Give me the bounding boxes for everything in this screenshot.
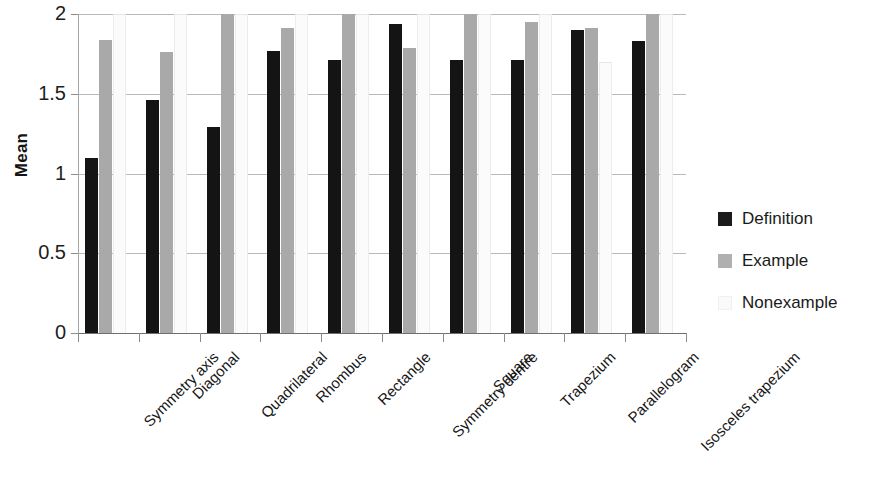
legend-label: Nonexample bbox=[742, 293, 837, 313]
x-axis-tick-mark bbox=[321, 333, 322, 342]
bar-group bbox=[146, 14, 187, 333]
y-axis-tick-mark bbox=[71, 174, 78, 175]
bar-group bbox=[450, 14, 491, 333]
x-axis-category-label: Quadrilateral bbox=[258, 349, 329, 420]
y-axis-tick-labels: 00.511.52 bbox=[12, 0, 66, 503]
x-axis-tick-mark bbox=[504, 333, 505, 342]
x-axis-tick-mark bbox=[625, 333, 626, 342]
x-axis-tick-mark bbox=[564, 333, 565, 342]
legend-swatch-icon bbox=[718, 296, 732, 310]
bar-nonexample bbox=[295, 14, 308, 333]
y-axis-tick-label: 0 bbox=[16, 322, 66, 342]
bar-group bbox=[632, 14, 673, 333]
bar-definition bbox=[571, 30, 584, 333]
x-axis-category-label: Trapezium bbox=[558, 349, 618, 409]
bar-example bbox=[160, 52, 173, 333]
y-axis-tick-label: 0.5 bbox=[16, 242, 66, 262]
bar-definition bbox=[328, 60, 341, 333]
bar-example bbox=[585, 28, 598, 333]
legend-label: Example bbox=[742, 251, 808, 271]
bar-nonexample bbox=[660, 14, 673, 333]
legend-label: Definition bbox=[742, 209, 813, 229]
bar-group bbox=[389, 14, 430, 333]
bar-example bbox=[281, 28, 294, 333]
bar-nonexample bbox=[478, 14, 491, 333]
bar-group bbox=[328, 14, 369, 333]
y-axis-tick-mark bbox=[71, 333, 78, 334]
x-axis-tick-mark bbox=[443, 333, 444, 342]
bar-example bbox=[646, 14, 659, 333]
x-axis-tick-mark bbox=[260, 333, 261, 342]
y-axis-tick-mark bbox=[71, 94, 78, 95]
bar-chart: Mean 00.511.52 Symmetry axisDiagonalQuad… bbox=[0, 0, 875, 503]
x-axis-tick-mark bbox=[78, 333, 79, 342]
plot-area bbox=[78, 14, 686, 333]
bar-nonexample bbox=[235, 14, 248, 333]
legend-swatch-icon bbox=[718, 254, 732, 268]
bar-definition bbox=[267, 51, 280, 333]
bar-group bbox=[207, 14, 248, 333]
x-axis-tick-mark bbox=[686, 333, 687, 342]
legend-item: Definition bbox=[718, 198, 868, 240]
x-axis-category-label: Parallelogram bbox=[625, 349, 701, 425]
bar-definition bbox=[632, 41, 645, 333]
bar-group bbox=[571, 14, 612, 333]
bar-definition bbox=[146, 100, 159, 333]
bar-example bbox=[525, 22, 538, 333]
bar-example bbox=[221, 14, 234, 333]
bar-example bbox=[403, 48, 416, 334]
bar-definition bbox=[450, 60, 463, 333]
bar-group bbox=[267, 14, 308, 333]
bar-group bbox=[511, 14, 552, 333]
bar-nonexample bbox=[174, 14, 187, 333]
legend-item: Example bbox=[718, 240, 868, 282]
x-axis-tick-mark bbox=[200, 333, 201, 342]
bar-example bbox=[464, 14, 477, 333]
bar-nonexample bbox=[599, 62, 612, 333]
y-axis-tick-label: 1.5 bbox=[16, 83, 66, 103]
bar-definition bbox=[85, 158, 98, 333]
y-axis-tick-mark bbox=[71, 14, 78, 15]
legend-swatch-icon bbox=[718, 212, 732, 226]
x-axis-tick-mark bbox=[382, 333, 383, 342]
x-axis-tick-mark bbox=[139, 333, 140, 342]
chart-legend: DefinitionExampleNonexample bbox=[718, 198, 868, 324]
x-axis-category-label: Isosceles trapezium bbox=[698, 349, 802, 453]
bar-example bbox=[99, 40, 112, 333]
legend-item: Nonexample bbox=[718, 282, 868, 324]
bar-nonexample bbox=[113, 14, 126, 333]
bar-definition bbox=[389, 24, 402, 333]
bar-nonexample bbox=[356, 14, 369, 333]
bar-example bbox=[342, 14, 355, 333]
bar-group bbox=[85, 14, 126, 333]
y-axis-tick-label: 2 bbox=[16, 3, 66, 23]
y-axis-tick-label: 1 bbox=[16, 163, 66, 183]
bar-nonexample bbox=[417, 14, 430, 333]
bar-definition bbox=[207, 127, 220, 333]
y-axis-line bbox=[78, 14, 79, 333]
y-axis-tick-mark bbox=[71, 253, 78, 254]
bar-definition bbox=[511, 60, 524, 333]
bar-nonexample bbox=[539, 14, 552, 333]
x-axis-category-label: Rectangle bbox=[375, 349, 433, 407]
